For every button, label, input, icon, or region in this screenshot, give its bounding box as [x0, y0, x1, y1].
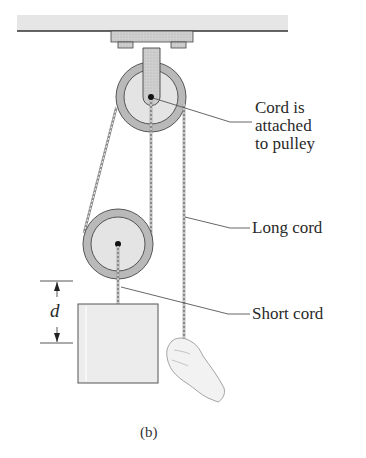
attached-label-line-2: attached: [255, 117, 315, 135]
dimension-d-label: d: [50, 300, 60, 322]
ceiling: [17, 15, 288, 31]
hanging-box: [78, 304, 158, 383]
attached-to-pulley-label: Cord is attached to pulley: [255, 99, 315, 153]
attached-label-line-3: to pulley: [255, 135, 315, 153]
mounting-bracket: [111, 31, 193, 48]
figure-caption: (b): [140, 424, 158, 441]
pulley-hanger-arm: [143, 48, 160, 106]
long-cord-label: Long cord: [252, 219, 322, 237]
attached-label-line-1: Cord is: [255, 99, 315, 117]
short-cord-label: Short cord: [252, 305, 323, 323]
lower-pulley: [83, 209, 153, 280]
pulley-diagram: Cord is attached to pulley Long cord Sho…: [0, 0, 366, 458]
hand-icon: [167, 338, 225, 402]
